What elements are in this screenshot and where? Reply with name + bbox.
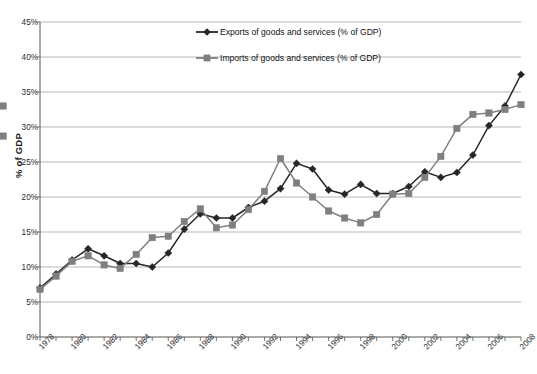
x-axis-tick-marks [40, 337, 521, 341]
chart-legend [196, 28, 218, 61]
legend-label-imports: Imports of goods and services (% of GDP) [220, 53, 381, 63]
axis-lines [40, 22, 521, 337]
data-series-layer [0, 71, 525, 293]
legend-label-exports: Exports of goods and services (% of GDP) [220, 27, 381, 37]
